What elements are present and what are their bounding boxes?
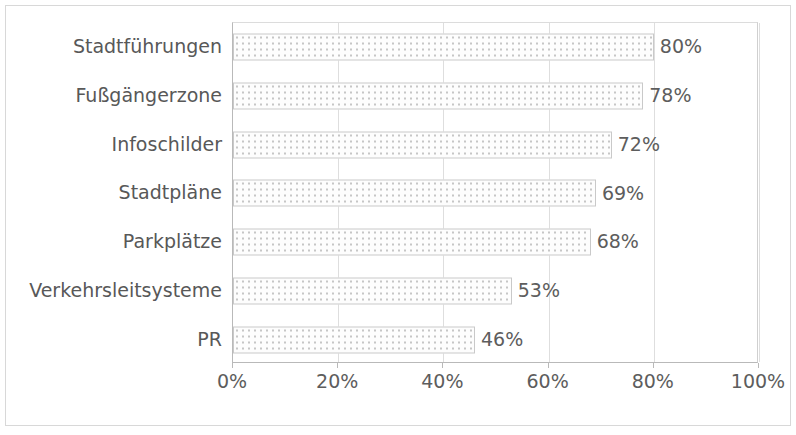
category-label: Fußgängerzone <box>75 86 222 105</box>
x-tick-mark <box>758 363 759 368</box>
category-label-holder: PR <box>0 314 232 363</box>
category-label-holder: Stadtführungen <box>0 22 232 71</box>
x-tick-mark <box>442 363 443 368</box>
data-label: 78% <box>649 86 691 105</box>
category-label-holder: Infoschilder <box>0 119 232 168</box>
plot-area <box>232 22 758 363</box>
data-label: 72% <box>618 134 660 153</box>
x-tick-label: 100% <box>731 372 785 391</box>
x-tick-mark <box>548 363 549 368</box>
x-tick-label: 80% <box>632 372 674 391</box>
category-label: PR <box>197 329 222 348</box>
bar <box>233 277 512 304</box>
data-label: 69% <box>602 183 644 202</box>
data-label: 53% <box>518 280 560 299</box>
x-tick-label: 40% <box>421 372 463 391</box>
x-tick-mark <box>232 363 233 368</box>
bar-row <box>233 218 757 267</box>
category-label: Parkplätze <box>123 232 222 251</box>
bar <box>233 83 643 110</box>
category-label-holder: Fußgängerzone <box>0 71 232 120</box>
category-label: Verkehrsleitsysteme <box>29 280 222 299</box>
category-label-holder: Parkplätze <box>0 217 232 266</box>
x-tick-label: 0% <box>217 372 247 391</box>
category-label: Infoschilder <box>112 134 222 153</box>
gridline-100 <box>759 23 760 362</box>
bar-row <box>233 120 757 169</box>
bar <box>233 326 475 353</box>
bar <box>233 229 591 256</box>
data-label: 68% <box>597 232 639 251</box>
category-label-holder: Verkehrsleitsysteme <box>0 266 232 315</box>
data-label: 46% <box>481 329 523 348</box>
bar-chart: StadtführungenFußgängerzoneInfoschilderS… <box>0 0 796 435</box>
bar-row <box>233 169 757 218</box>
category-label: Stadtpläne <box>119 183 222 202</box>
bar <box>233 131 612 158</box>
x-tick-label: 60% <box>526 372 568 391</box>
bar <box>233 180 596 207</box>
x-tick-mark <box>653 363 654 368</box>
bar-row <box>233 267 757 316</box>
bar <box>233 34 654 61</box>
x-tick-label: 20% <box>316 372 358 391</box>
category-label: Stadtführungen <box>73 37 222 56</box>
x-tick-mark <box>337 363 338 368</box>
data-label: 80% <box>660 37 702 56</box>
category-label-holder: Stadtpläne <box>0 168 232 217</box>
